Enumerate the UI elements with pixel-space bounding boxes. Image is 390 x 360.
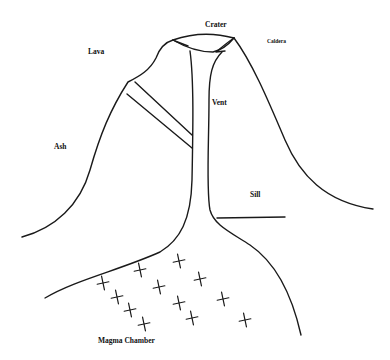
crater-inner-line <box>175 41 188 46</box>
magma-cross <box>172 295 187 311</box>
magma-cross <box>123 302 138 318</box>
label-magma-chamber: Magma Chamber <box>98 337 155 345</box>
magma-cross <box>185 310 200 326</box>
magma-cross <box>216 291 231 307</box>
magma-cross <box>133 262 148 278</box>
magma-cross <box>96 275 111 291</box>
magma-cross <box>152 279 167 295</box>
label-caldera: Caldera <box>267 39 286 45</box>
sill-line <box>217 217 285 218</box>
crater-rim-upper <box>173 34 234 40</box>
magma-cross <box>193 271 208 287</box>
label-ash: Ash <box>54 143 67 151</box>
magma-cross <box>238 312 253 328</box>
label-lava: Lava <box>88 48 104 56</box>
magma-cross <box>137 316 152 332</box>
vent-left-wall <box>45 51 193 298</box>
volcano-diagram <box>0 0 390 360</box>
label-vent: Vent <box>212 99 227 107</box>
volcano-right-flank <box>234 38 373 209</box>
dike-lower-line <box>127 94 192 148</box>
magma-crosses <box>96 253 253 332</box>
magma-cross <box>172 253 187 269</box>
label-crater: Crater <box>205 21 227 29</box>
magma-cross <box>110 289 125 305</box>
volcano-left-flank <box>22 40 173 237</box>
crater-inner-right <box>216 38 234 52</box>
label-sill: Sill <box>250 191 260 199</box>
